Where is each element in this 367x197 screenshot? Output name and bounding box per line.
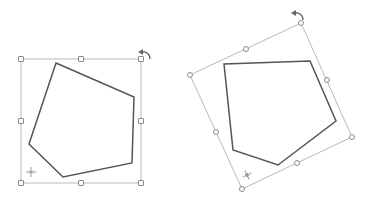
- resize-handle[interactable]: [295, 161, 300, 166]
- resize-handle[interactable]: [19, 119, 24, 124]
- resize-handle[interactable]: [79, 57, 84, 62]
- resize-handle[interactable]: [299, 21, 304, 26]
- resize-handle[interactable]: [350, 135, 355, 140]
- figure-rotated[interactable]: [188, 10, 355, 192]
- resize-handle[interactable]: [139, 181, 144, 186]
- resize-handle[interactable]: [244, 47, 249, 52]
- pivot-crosshair-icon[interactable]: [26, 167, 36, 177]
- resize-handle[interactable]: [325, 78, 330, 83]
- pentagon-shape[interactable]: [29, 63, 134, 177]
- resize-handle[interactable]: [19, 57, 24, 62]
- resize-handle[interactable]: [19, 181, 24, 186]
- drawing-canvas[interactable]: [0, 0, 367, 197]
- resize-handle[interactable]: [240, 187, 245, 192]
- resize-handle[interactable]: [139, 119, 144, 124]
- resize-handle[interactable]: [214, 130, 219, 135]
- resize-handle[interactable]: [139, 57, 144, 62]
- resize-handle[interactable]: [188, 73, 193, 78]
- rotate-arrow-icon[interactable]: [291, 10, 303, 20]
- resize-handle[interactable]: [79, 181, 84, 186]
- pentagon-shape[interactable]: [224, 61, 336, 165]
- figure-original[interactable]: [19, 49, 151, 186]
- pivot-crosshair-icon[interactable]: [240, 168, 253, 181]
